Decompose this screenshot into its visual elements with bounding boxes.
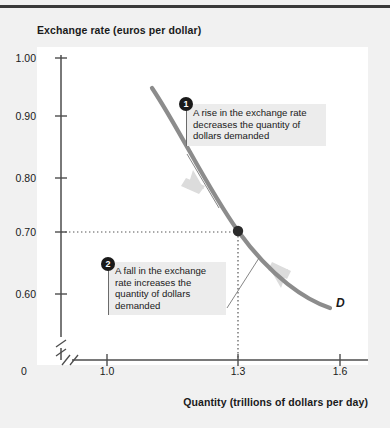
annotation-text-2: A fall in the exchange rate increases th… bbox=[115, 265, 206, 311]
chart-graphics-layer bbox=[0, 0, 390, 428]
leader-line-2 bbox=[227, 258, 259, 308]
annotation-callout-1: A rise in the exchange rate decreases th… bbox=[186, 104, 326, 146]
annotation-callout-2: A fall in the exchange rate increases th… bbox=[108, 262, 226, 315]
annotation-text-1: A rise in the exchange rate decreases th… bbox=[193, 107, 307, 141]
annotation-badge-2: 2 bbox=[101, 257, 115, 271]
annotation-badge-1: 1 bbox=[179, 97, 193, 111]
y-axis-break-mark-upper bbox=[56, 340, 66, 347]
figure-container: Exchange rate (euros per dollar) 1.00 0.… bbox=[0, 0, 390, 428]
demand-curve-label: D bbox=[336, 296, 345, 310]
x-axis-break-mark-left bbox=[62, 355, 70, 365]
equilibrium-point bbox=[233, 226, 243, 236]
